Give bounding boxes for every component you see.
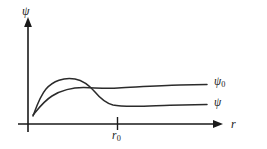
x-axis-label: r (231, 118, 236, 130)
tick-label-subscript: 0 (117, 134, 121, 143)
curve-label-psi0: ψ0 (214, 76, 225, 88)
y-axis-arrowhead (24, 17, 32, 27)
x-axis-arrowhead (213, 120, 223, 128)
curve-label-psi0-subscript: 0 (221, 80, 225, 89)
curve-psi0 (33, 85, 207, 115)
tick-label-base: r (112, 129, 116, 141)
x-axis-tick-label-r0: r0 (112, 130, 121, 142)
curve-label-psi-base: ψ (214, 96, 221, 108)
plot-canvas (0, 0, 267, 149)
figure-root: ψ r ψ0 ψ r0 (0, 0, 267, 149)
y-axis-label: ψ (22, 5, 29, 17)
curve-label-psi: ψ (214, 97, 221, 109)
curve-psi (33, 78, 207, 116)
